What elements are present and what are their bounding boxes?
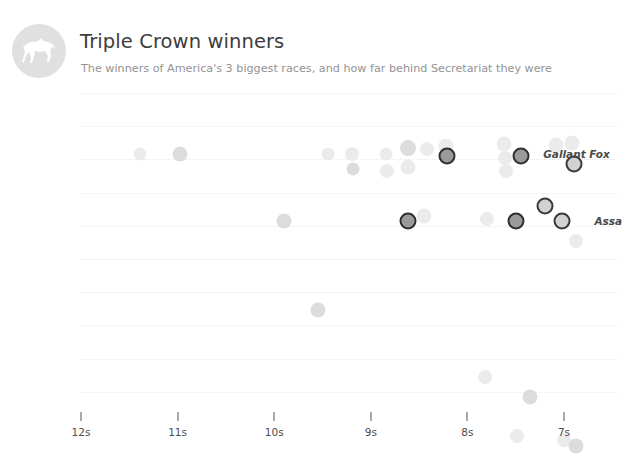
gridline [80,193,617,195]
data-point-highlighted[interactable] [507,212,524,229]
data-point[interactable] [510,429,524,443]
data-point[interactable] [380,148,393,161]
data-point[interactable] [347,163,360,176]
gridline [80,126,617,128]
gridline [80,93,617,95]
gridline [80,259,617,261]
data-point[interactable] [497,137,512,152]
x-axis-tick-mark [564,412,565,421]
data-point[interactable] [276,213,291,228]
data-point[interactable] [416,208,431,223]
gridline [80,226,617,228]
x-axis-tick-mark [467,412,468,421]
x-axis-tick-mark [370,412,371,421]
x-axis-tick-label: 7s [558,426,570,438]
data-point[interactable] [568,439,583,454]
data-point-highlighted[interactable] [439,147,456,164]
data-point-highlighted[interactable] [536,197,553,214]
data-point[interactable] [499,164,513,178]
data-point[interactable] [523,389,538,404]
data-point[interactable] [133,148,146,161]
data-point-highlighted[interactable] [399,212,416,229]
point-label: Gallant Fox [543,148,609,160]
data-point[interactable] [380,164,394,178]
data-point[interactable] [420,142,434,156]
data-point[interactable] [345,147,359,161]
data-point-highlighted[interactable] [554,212,571,229]
x-axis-tick-label: 11s [168,426,187,438]
x-axis-tick-mark [177,412,178,421]
x-axis-tick-label: 12s [72,426,91,438]
gridline [80,359,617,361]
data-point[interactable] [480,212,494,226]
data-point[interactable] [478,370,492,384]
data-point[interactable] [569,234,583,248]
gridline [80,292,617,294]
data-point[interactable] [310,303,325,318]
data-point[interactable] [400,140,416,156]
data-point[interactable] [322,148,335,161]
data-point-highlighted[interactable] [513,147,530,164]
x-axis-tick-label: 9s [365,426,377,438]
gridline [80,325,617,327]
data-point[interactable] [172,147,187,162]
x-axis-tick-mark [81,412,82,421]
x-axis-tick-mark [274,412,275,421]
data-point[interactable] [401,160,416,175]
data-point[interactable] [498,151,512,165]
x-axis-tick-label: 8s [461,426,473,438]
x-axis-tick-label: 10s [265,426,284,438]
point-label: Assa [594,215,622,227]
